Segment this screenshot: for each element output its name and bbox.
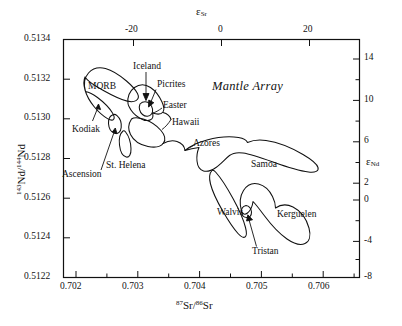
right-axis-title: εNd	[366, 156, 379, 168]
right-tick-label-3: 2	[364, 178, 369, 188]
left-tick-label-5: 0.5124	[24, 232, 50, 242]
field-outline-walvis	[210, 170, 247, 237]
bottom-tick-label-0: 0.702	[60, 282, 81, 292]
left-axis-title-sup: 144	[15, 158, 23, 169]
left-tick-label-6: 0.5122	[24, 272, 50, 282]
field-outline-hawaii-arc	[163, 113, 171, 120]
y-axis-ticks-left	[64, 40, 71, 278]
left-tick-label-2: 0.5130	[24, 113, 50, 123]
leader-hawaii	[162, 120, 171, 130]
right-tick-label-1: 10	[364, 95, 374, 105]
top-tick-label-0: -20	[125, 25, 138, 35]
bottom-tick-label-2: 0.704	[184, 282, 205, 292]
bottom-axis-title-end: Sr	[203, 299, 213, 311]
field-label-samoa: Samoa	[251, 160, 277, 170]
field-outline-easter-hawaii	[129, 118, 165, 147]
right-tick-label-6: -8	[364, 272, 372, 282]
field-label-iceland: Iceland	[133, 62, 161, 72]
left-axis-title-end: Nd	[15, 144, 27, 157]
right-tick-label-4: 0	[364, 195, 369, 205]
figure-sr-nd-mantle-array: εSr -20 0 20 0.5134 0.5132 0.5130 0.5128…	[0, 0, 402, 326]
left-axis-title: 143Nd/144Nd	[16, 144, 27, 195]
field-label-ascension: Ascension	[62, 170, 102, 180]
field-label-tristan: Tristan	[252, 247, 279, 257]
field-label-walvis: Walvis	[217, 208, 243, 218]
right-tick-label-5: -4	[364, 236, 372, 246]
x-axis-ticks-bottom	[76, 271, 354, 278]
leader-tristan	[249, 218, 257, 247]
bottom-axis-title-sup: 86	[196, 299, 203, 307]
left-tick-label-0: 0.5134	[24, 34, 50, 44]
x-axis-ticks-top	[134, 40, 310, 47]
plot-frame	[64, 40, 360, 278]
bottom-axis-title-mid: Sr/	[183, 299, 196, 311]
bottom-axis-title: 87Sr/86Sr	[176, 300, 213, 311]
left-tick-label-4: 0.5126	[24, 193, 50, 203]
right-tick-label-2: 6	[364, 136, 369, 146]
top-tick-label-2: 20	[303, 25, 313, 35]
y-axis-ticks-right	[353, 59, 360, 278]
left-axis-title-pre: 143	[15, 185, 23, 196]
leader-easter	[153, 108, 163, 113]
field-label-easter: Easter	[163, 101, 187, 111]
field-label-azores: Azores	[193, 139, 220, 149]
bottom-tick-label-4: 0.706	[308, 282, 329, 292]
field-label-picrites: Picrites	[157, 80, 186, 90]
bottom-tick-label-1: 0.703	[122, 282, 143, 292]
left-tick-label-1: 0.5132	[24, 74, 50, 84]
bottom-axis-title-pre: 87	[176, 299, 183, 307]
field-label-st-helena: St. Helena	[106, 161, 146, 171]
field-outline-st-helena	[119, 131, 131, 157]
field-outline-azores	[163, 141, 185, 151]
field-label-kerguelen: Kerguelen	[277, 210, 316, 220]
right-axis-title-sub: Nd	[371, 160, 380, 168]
top-axis-title-sub: Sr	[201, 10, 207, 18]
field-label-hawaii: Hawaii	[172, 118, 199, 128]
right-tick-label-0: 14	[364, 53, 374, 63]
top-axis-title: εSr	[196, 6, 207, 18]
field-label-morb: MORB	[88, 82, 116, 92]
field-label-kodiak: Kodiak	[72, 125, 100, 135]
top-tick-label-1: 0	[218, 25, 223, 35]
annotation-mantle-array: Mantle Array	[212, 80, 283, 93]
left-axis-title-mid: Nd/	[15, 168, 27, 185]
left-tick-label-3: 0.5128	[24, 153, 50, 163]
field-outline-morb	[84, 68, 138, 120]
bottom-tick-label-3: 0.705	[246, 282, 267, 292]
chart-canvas	[0, 0, 402, 326]
